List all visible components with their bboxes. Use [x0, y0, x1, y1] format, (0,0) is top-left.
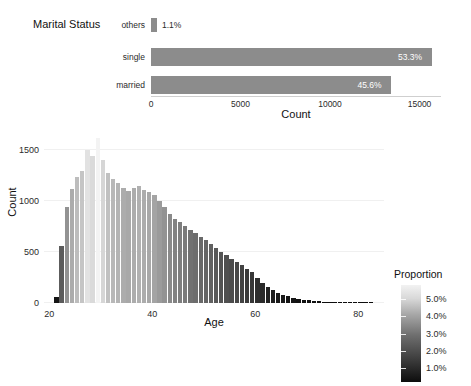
histogram-bar	[173, 219, 177, 304]
histogram-y-tick: 500	[24, 247, 39, 257]
colorbar-tick-label: 4.0%	[426, 311, 447, 321]
histogram-bar	[101, 160, 105, 303]
bar-x-tick: 10000	[318, 99, 342, 109]
histogram-bar	[281, 295, 285, 303]
histogram-bar	[302, 300, 306, 303]
histogram-bar	[54, 297, 58, 303]
bar-category-label-married: married	[116, 80, 145, 90]
histogram-bar	[307, 300, 311, 303]
histogram-bar	[224, 255, 228, 303]
histogram-bars	[44, 135, 384, 303]
colorbar-tick-label: 1.0%	[426, 363, 447, 373]
histogram-bar	[209, 244, 213, 303]
histogram-bar	[286, 296, 290, 303]
histogram-bar	[338, 302, 342, 303]
histogram-bar	[322, 302, 326, 303]
bar-x-tick: 5000	[231, 99, 250, 109]
legend-title: Proportion	[394, 268, 442, 280]
age-histogram: 05001000150020406080 Count Age Proportio…	[0, 120, 471, 332]
histogram-bar	[214, 248, 218, 303]
histogram-bar	[183, 226, 187, 303]
histogram-bar	[152, 195, 156, 303]
histogram-bar	[178, 222, 182, 303]
bar-x-tick: 15000	[408, 99, 432, 109]
bar-row: 53.3%	[151, 48, 441, 66]
histogram-bar	[132, 188, 136, 303]
histogram-bar	[96, 138, 100, 303]
histogram-bar	[116, 183, 120, 303]
histogram-y-tick: 1500	[19, 145, 39, 155]
marital-status-bar-chart: Marital Status 1.1%53.3%45.6% Count othe…	[0, 0, 471, 118]
histogram-bar	[219, 252, 223, 303]
histogram-bar	[111, 179, 115, 303]
histogram-y-tick: 0	[34, 298, 39, 308]
histogram-bar	[358, 302, 362, 303]
bar-value-label-married: 45.6%	[357, 80, 381, 90]
bar-value-label-others: 1.1%	[162, 20, 181, 30]
histogram-bar	[193, 233, 197, 303]
colorbar-tick-label: 2.0%	[426, 346, 447, 356]
bar-rect-others	[151, 18, 157, 32]
histogram-bar	[106, 173, 110, 303]
histogram-bar	[255, 278, 259, 303]
histogram-bar	[80, 171, 84, 303]
histogram-bar	[235, 262, 239, 303]
bar-row: 45.6%	[151, 76, 441, 94]
bar-chart-title: Marital Status	[33, 19, 100, 30]
histogram-bar	[327, 302, 331, 303]
histogram-bar	[250, 272, 254, 303]
bar-x-axis-label: Count	[281, 108, 310, 120]
proportion-colorbar-legend: Proportion 5.0%4.0%3.0%2.0%1.0%	[394, 268, 471, 386]
histogram-bar	[260, 283, 264, 303]
bar-rect-single	[151, 48, 432, 66]
histogram-bar	[363, 302, 367, 303]
histogram-bar	[271, 290, 275, 303]
histogram-bar	[147, 192, 151, 303]
histogram-bar	[157, 201, 161, 303]
colorbar-tick	[401, 351, 406, 352]
histogram-bar	[121, 188, 125, 303]
histogram-bar	[353, 302, 357, 303]
histogram-bar	[348, 302, 352, 303]
histogram-bar	[312, 301, 316, 303]
histogram-bar	[291, 298, 295, 303]
histogram-bar	[245, 269, 249, 303]
histogram-bar	[85, 150, 89, 303]
histogram-bar	[70, 189, 74, 303]
colorbar-tick-label: 3.0%	[426, 329, 447, 339]
bar-x-tick: 0	[149, 99, 154, 109]
histogram-bar	[317, 301, 321, 303]
bar-category-label-single: single	[123, 52, 145, 62]
colorbar-tick	[401, 316, 406, 317]
histogram-bar	[75, 177, 79, 303]
bar-x-axis-line	[151, 96, 441, 97]
histogram-x-tick: 80	[353, 309, 363, 319]
histogram-y-axis-label: Count	[6, 187, 18, 216]
colorbar-tick-label: 5.0%	[426, 294, 447, 304]
colorbar-tick	[401, 299, 406, 300]
histogram-x-tick: 40	[147, 309, 157, 319]
bar-plot-area: 1.1%53.3%45.6%	[151, 18, 441, 96]
bar-row: 1.1%	[151, 18, 441, 32]
histogram-bar	[204, 240, 208, 303]
histogram-x-tick: 20	[44, 309, 54, 319]
histogram-bar	[240, 265, 244, 303]
histogram-bar	[90, 156, 94, 303]
histogram-bar	[168, 214, 172, 303]
bar-category-label-others: others	[121, 20, 145, 30]
colorbar-tick	[401, 334, 406, 335]
bar-rect-married	[151, 76, 391, 94]
histogram-y-tick: 1000	[19, 196, 39, 206]
histogram-bar	[343, 302, 347, 303]
histogram-bar	[199, 237, 203, 303]
bar-value-label-single: 53.3%	[398, 52, 422, 62]
histogram-bar	[65, 207, 69, 303]
histogram-bar	[229, 259, 233, 303]
histogram-x-tick: 60	[250, 309, 260, 319]
colorbar-tick	[401, 368, 406, 369]
histogram-bar	[266, 287, 270, 303]
histogram-bar	[276, 293, 280, 303]
histogram-bar	[296, 299, 300, 303]
histogram-bar	[332, 302, 336, 303]
